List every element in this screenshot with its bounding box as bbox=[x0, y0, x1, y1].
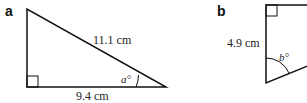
angle-label-a: a° bbox=[121, 73, 132, 85]
triangle-b-shape bbox=[266, 5, 307, 83]
triangle-a: a 11.1 cm 9.4 cm a° bbox=[5, 3, 166, 103]
right-angle-marker-a bbox=[27, 76, 38, 87]
right-angle-marker-b bbox=[266, 5, 277, 16]
angle-arc-a bbox=[136, 75, 139, 87]
base-label-a: 9.4 cm bbox=[76, 89, 109, 103]
triangles-diagram: a 11.1 cm 9.4 cm a° b 4.9 cm b° bbox=[0, 0, 307, 103]
figure-b-label: b bbox=[217, 3, 226, 19]
triangle-b: b 4.9 cm b° bbox=[217, 3, 307, 83]
figure-a-label: a bbox=[5, 3, 13, 19]
hypotenuse-label-a: 11.1 cm bbox=[93, 33, 132, 47]
angle-label-b: b° bbox=[279, 51, 290, 63]
side-label-b: 4.9 cm bbox=[227, 36, 260, 50]
triangle-a-shape bbox=[27, 9, 166, 87]
